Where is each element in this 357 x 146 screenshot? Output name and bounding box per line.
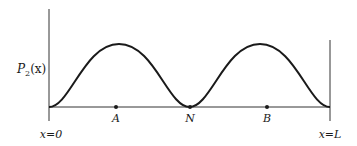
node-n-label: N — [184, 112, 195, 125]
probability-density-diagram: P2(x) A N B x=0 x=L — [0, 0, 357, 146]
point-b-label: B — [262, 112, 271, 125]
left-boundary-label: x=0 — [40, 128, 62, 141]
probability-curve — [49, 44, 330, 107]
point-b-marker — [265, 105, 269, 109]
point-a-marker — [114, 105, 118, 109]
node-n-marker — [188, 105, 192, 109]
y-axis-label: P2(x) — [16, 62, 46, 78]
right-boundary-label: x=L — [319, 128, 342, 141]
point-a-label: A — [111, 112, 120, 125]
